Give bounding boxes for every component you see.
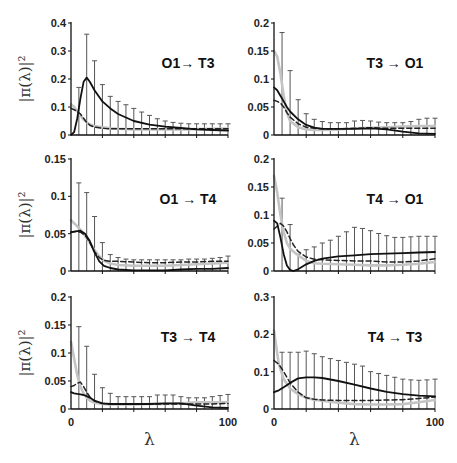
x-tick-label: 100 [219, 416, 237, 428]
y-axis-label: |π(λ)|² [16, 191, 34, 238]
panel-T4-O1: 00.050.10.150.2T4 → O1 [248, 153, 438, 277]
panel-title: O1 → T4 [160, 191, 217, 207]
panel-title: T3 → T4 [161, 329, 216, 345]
error-bars [76, 34, 230, 135]
panel-title: T3 → O1 [367, 55, 424, 71]
panel-T4-T3: 00.10.20.3T4 → T30100λ [254, 291, 444, 449]
x-axis-label: λ [349, 429, 360, 449]
x-tick-label: 100 [426, 416, 444, 428]
panel-title: T4 → O1 [367, 191, 424, 207]
panel-O1-T3: 00.10.20.30.4O1→ T3|π(λ)|² [16, 17, 231, 141]
panel-T3-O1: 00.050.10.150.2T3 → O1 [248, 17, 438, 141]
y-tick-label: 0.2 [254, 328, 269, 340]
y-tick-label: 0.1 [254, 366, 269, 378]
y-tick-label: 0.3 [51, 45, 66, 57]
error-bars [280, 351, 438, 409]
y-tick-label: 0 [263, 265, 269, 277]
y-tick-label: 0 [60, 265, 66, 277]
y-axis-label: |π(λ)|² [16, 329, 34, 376]
y-tick-label: 0.2 [51, 73, 66, 85]
y-tick-label: 0.1 [51, 101, 66, 113]
x-tick-label: 0 [271, 416, 277, 428]
panel-title: O1→ T3 [162, 55, 215, 71]
y-tick-label: 0 [60, 129, 66, 141]
y-tick-label: 0.05 [45, 375, 66, 387]
y-tick-label: 0.15 [248, 45, 269, 57]
y-tick-label: 0.3 [254, 291, 269, 303]
y-tick-label: 0.2 [254, 153, 269, 165]
panel-T3-T4: 00.050.10.150.2T3 → T4|π(λ)|²0100λ [16, 291, 237, 449]
y-tick-label: 0 [263, 129, 269, 141]
y-tick-label: 0.1 [254, 209, 269, 221]
y-tick-label: 0.2 [254, 17, 269, 29]
y-tick-label: 0.05 [248, 101, 269, 113]
y-tick-label: 0.05 [45, 228, 66, 240]
x-tick-label: 0 [68, 416, 74, 428]
y-axis-label: |π(λ)|² [16, 55, 34, 102]
x-axis-label: λ [144, 429, 155, 449]
figure-grid: 00.10.20.30.4O1→ T3|π(λ)|²00.050.10.150.… [0, 0, 457, 463]
error-bars [280, 33, 438, 135]
y-tick-label: 0.4 [51, 17, 67, 29]
panel-O1-T4: 00.050.10.15O1 → T4|π(λ)|² [16, 153, 231, 277]
panel-title: T4 → T3 [368, 329, 423, 345]
y-tick-label: 0.1 [51, 347, 66, 359]
y-tick-label: 0.1 [51, 190, 66, 202]
y-tick-label: 0 [60, 403, 66, 415]
y-tick-label: 0 [263, 403, 269, 415]
y-tick-label: 0.2 [51, 291, 66, 303]
y-tick-label: 0.1 [254, 73, 269, 85]
y-tick-label: 0.15 [248, 181, 269, 193]
y-tick-label: 0.15 [45, 153, 66, 165]
y-tick-label: 0.05 [248, 237, 269, 249]
y-tick-label: 0.15 [45, 319, 66, 331]
